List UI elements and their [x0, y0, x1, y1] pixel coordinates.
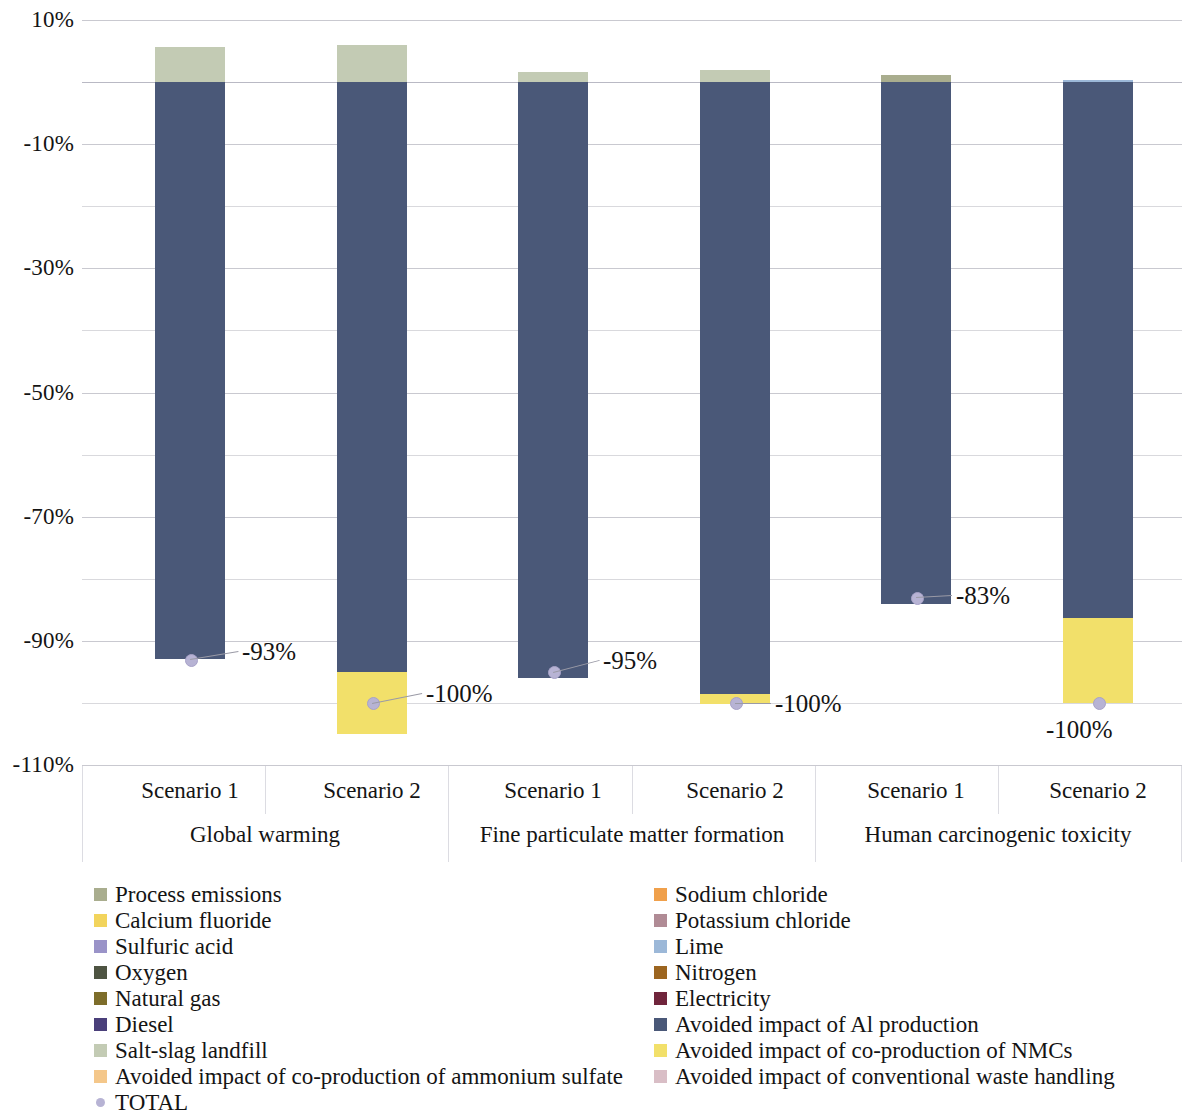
bar-segment	[155, 47, 225, 82]
bar-5[interactable]	[881, 20, 951, 765]
legend-swatch-icon	[654, 992, 667, 1005]
category-label-3: Human carcinogenic toxicity	[808, 822, 1188, 848]
scenario-label-1: Scenario 1	[100, 778, 280, 804]
legend-item[interactable]: Salt-slag landfill	[94, 1038, 654, 1063]
total-marker[interactable]	[367, 697, 380, 710]
gridline-major	[82, 268, 1182, 269]
legend-item[interactable]: Nitrogen	[654, 960, 1184, 985]
legend-item[interactable]: Potassium chloride	[654, 908, 1184, 933]
legend-label: Sodium chloride	[675, 882, 828, 907]
category-label-2: Fine particulate matter formation	[442, 822, 822, 848]
total-marker[interactable]	[730, 697, 743, 710]
legend-swatch-icon	[94, 888, 107, 901]
legend-label: Lime	[675, 934, 724, 959]
gridline-minor	[82, 206, 1182, 207]
total-data-label: -95%	[603, 648, 657, 673]
stacked-bar-chart: 10%-10%-30%-50%-70%-90%-110%-93%-100%-95…	[0, 0, 1190, 1113]
category-axis: Scenario 1Scenario 2Scenario 1Scenario 2…	[82, 766, 1182, 862]
bar-segment	[881, 82, 951, 604]
bar-segment	[337, 45, 407, 82]
legend-item[interactable]: Natural gas	[94, 986, 654, 1011]
legend-item[interactable]: Oxygen	[94, 960, 654, 985]
gridline-minor	[82, 455, 1182, 456]
legend-item[interactable]: Avoided impact of co-production of ammon…	[94, 1064, 654, 1089]
legend-swatch-icon	[654, 1018, 667, 1031]
legend-item[interactable]: Lime	[654, 934, 1184, 959]
legend-label: Avoided impact of co-production of NMCs	[675, 1038, 1073, 1063]
gridline-major	[82, 144, 1182, 145]
y-axis-tick-label: -30%	[0, 256, 74, 279]
legend-swatch-icon	[94, 940, 107, 953]
legend-label: Salt-slag landfill	[115, 1038, 268, 1063]
bar-segment	[518, 72, 588, 82]
scenario-label-4: Scenario 2	[645, 778, 825, 804]
gridline-major	[82, 20, 1182, 21]
bar-segment	[1063, 82, 1133, 618]
legend-column-left: Process emissionsCalcium fluorideSulfuri…	[94, 882, 654, 1113]
legend-swatch-icon	[654, 940, 667, 953]
zero-line	[82, 82, 1182, 83]
y-axis-tick-label: -110%	[0, 753, 74, 776]
legend-swatch-icon	[94, 966, 107, 979]
legend-swatch-icon	[654, 966, 667, 979]
total-data-label: -100%	[1046, 717, 1113, 742]
legend-swatch-icon	[94, 914, 107, 927]
total-data-label: -93%	[242, 639, 296, 664]
y-axis-tick-label: -90%	[0, 629, 74, 652]
bar-segment	[700, 82, 770, 694]
bar-4[interactable]	[700, 20, 770, 765]
legend-swatch-icon	[94, 1018, 107, 1031]
legend-label: Diesel	[115, 1012, 174, 1037]
total-data-label: -100%	[426, 681, 493, 706]
axis-separator-mid	[998, 766, 999, 814]
legend-column-right: Sodium chloridePotassium chlorideLimeNit…	[654, 882, 1184, 1090]
legend-swatch-icon	[94, 992, 107, 1005]
legend-label: Calcium fluoride	[115, 908, 272, 933]
total-marker[interactable]	[1093, 697, 1106, 710]
axis-separator-mid	[632, 766, 633, 814]
legend-item[interactable]: Sodium chloride	[654, 882, 1184, 907]
bar-segment	[1063, 618, 1133, 703]
total-data-label: -100%	[775, 691, 842, 716]
gridline-minor	[82, 579, 1182, 580]
legend-label: Natural gas	[115, 986, 220, 1011]
scenario-label-5: Scenario 1	[826, 778, 1006, 804]
total-marker[interactable]	[911, 592, 924, 605]
legend-item[interactable]: TOTAL	[94, 1090, 654, 1113]
gridline-minor	[82, 703, 1182, 704]
legend-item[interactable]: Avoided impact of co-production of NMCs	[654, 1038, 1184, 1063]
legend-label: Sulfuric acid	[115, 934, 233, 959]
legend-swatch-icon	[654, 888, 667, 901]
legend-label: Nitrogen	[675, 960, 757, 985]
y-axis-tick-label: -10%	[0, 132, 74, 155]
legend-item[interactable]: Diesel	[94, 1012, 654, 1037]
bar-segment	[518, 82, 588, 678]
legend-marker-icon	[96, 1098, 105, 1107]
legend-label: Avoided impact of co-production of ammon…	[115, 1064, 623, 1089]
gridline-major	[82, 517, 1182, 518]
legend-item[interactable]: Avoided impact of Al production	[654, 1012, 1184, 1037]
bar-segment	[881, 75, 951, 82]
bar-6[interactable]	[1063, 20, 1133, 765]
legend-item[interactable]: Avoided impact of conventional waste han…	[654, 1064, 1184, 1089]
legend-swatch-icon	[94, 1070, 107, 1083]
bar-segment	[700, 70, 770, 82]
axis-separator-mid	[265, 766, 266, 814]
total-marker[interactable]	[185, 654, 198, 667]
legend-item[interactable]: Process emissions	[94, 882, 654, 907]
legend-label: Potassium chloride	[675, 908, 851, 933]
legend-item[interactable]: Sulfuric acid	[94, 934, 654, 959]
gridline-minor	[82, 330, 1182, 331]
legend-label: TOTAL	[115, 1090, 188, 1113]
scenario-label-6: Scenario 2	[1008, 778, 1188, 804]
legend-item[interactable]: Electricity	[654, 986, 1184, 1011]
bar-2[interactable]	[337, 20, 407, 765]
scenario-label-3: Scenario 1	[463, 778, 643, 804]
bar-3[interactable]	[518, 20, 588, 765]
legend-label: Avoided impact of conventional waste han…	[675, 1064, 1115, 1089]
scenario-label-2: Scenario 2	[282, 778, 462, 804]
y-axis-tick-label: -50%	[0, 381, 74, 404]
y-axis-tick-label: -70%	[0, 505, 74, 528]
total-marker[interactable]	[548, 666, 561, 679]
legend-item[interactable]: Calcium fluoride	[94, 908, 654, 933]
